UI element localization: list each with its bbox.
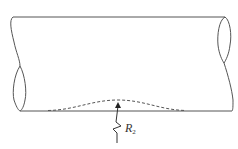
arrow-head-icon bbox=[115, 102, 121, 108]
pipe-left-break bbox=[11, 17, 26, 111]
pipe-diagram: R2 bbox=[0, 0, 238, 149]
radius-label: R2 bbox=[125, 122, 136, 136]
radius-subscript: 2 bbox=[132, 128, 136, 136]
radius-arrow bbox=[113, 106, 121, 143]
pipe-right-break bbox=[218, 17, 233, 111]
